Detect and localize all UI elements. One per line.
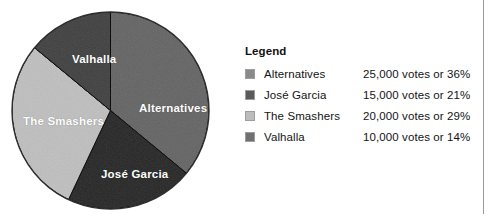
figure-right-border — [483, 0, 484, 214]
legend-swatch-alternatives — [245, 69, 255, 79]
legend-swatch-valhalla — [245, 132, 255, 142]
legend: Legend Alternatives 25,000 votes or 36% … — [245, 45, 480, 148]
legend-row-the-smashers: The Smashers 20,000 votes or 29% — [245, 106, 480, 127]
pie-label-valhalla: Valhalla — [72, 53, 116, 65]
pie-label-alternatives: Alternatives — [139, 102, 207, 114]
legend-row-alternatives: Alternatives 25,000 votes or 36% — [245, 64, 480, 85]
legend-row-valhalla: Valhalla 10,000 votes or 14% — [245, 127, 480, 148]
pie-chart: Alternatives José Garcia The Smashers Va… — [11, 11, 210, 210]
legend-name-jose-garcia: José Garcia — [264, 85, 326, 106]
legend-row-jose-garcia: José Garcia 15,000 votes or 21% — [245, 85, 480, 106]
legend-value-valhalla: 10,000 votes or 14% — [363, 127, 470, 148]
legend-swatch-jose-garcia — [245, 90, 255, 100]
legend-title: Legend — [245, 45, 480, 57]
legend-name-the-smashers: The Smashers — [264, 106, 340, 127]
legend-value-the-smashers: 20,000 votes or 29% — [363, 106, 470, 127]
pie-label-the-smashers: The Smashers — [23, 115, 104, 127]
legend-name-alternatives: Alternatives — [264, 64, 325, 85]
legend-value-jose-garcia: 15,000 votes or 21% — [363, 85, 470, 106]
legend-value-alternatives: 25,000 votes or 36% — [363, 64, 470, 85]
pie-chart-figure: Alternatives José Garcia The Smashers Va… — [0, 0, 495, 214]
legend-swatch-the-smashers — [245, 111, 255, 121]
legend-name-valhalla: Valhalla — [264, 127, 305, 148]
pie-label-jose-garcia: José Garcia — [101, 168, 168, 180]
